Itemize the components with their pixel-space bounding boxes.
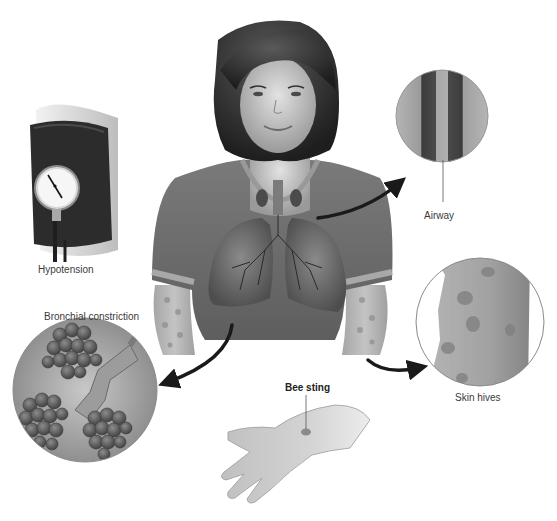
bronchi-alveoli-icon xyxy=(13,318,157,462)
sphygmomanometer-icon xyxy=(30,104,118,262)
illustration-canvas xyxy=(0,0,557,521)
label-hypotension: Hypotension xyxy=(38,264,94,275)
label-airway: Airway xyxy=(424,210,454,221)
label-skin-hives: Skin hives xyxy=(455,392,501,403)
label-bronchial-constriction: Bronchial constriction xyxy=(44,311,139,322)
label-bee-sting: Bee sting xyxy=(285,382,330,393)
arrow-to-hives xyxy=(368,360,418,370)
skin-hives-icon xyxy=(416,255,544,390)
woman-figure xyxy=(152,20,393,355)
hand-icon xyxy=(221,395,370,503)
airway-cross-section-icon xyxy=(396,70,488,202)
